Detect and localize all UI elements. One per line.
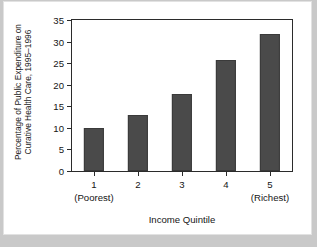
y-axis-tick: [67, 20, 72, 21]
chart-figure: Percentage of Public Expenditure on Cura…: [3, 1, 312, 235]
y-axis-tick: [67, 42, 72, 43]
plot-area: 051015202530351(Poorest)2345(Richest): [71, 19, 293, 172]
x-axis-tick: [138, 171, 139, 176]
x-axis-tick-label: 3: [179, 179, 184, 190]
x-axis-tick: [182, 171, 183, 176]
y-axis-tick: [67, 63, 72, 64]
page-bottom-band: [0, 236, 317, 247]
y-axis-title: Percentage of Public Expenditure on Cura…: [10, 12, 38, 172]
y-axis-tick-label: 20: [53, 79, 64, 90]
x-axis-tick-sublabel: (Poorest): [74, 192, 113, 203]
y-axis-tick-label: 35: [53, 15, 64, 26]
x-axis-tick-label: 1: [91, 179, 96, 190]
y-axis-tick: [67, 106, 72, 107]
y-axis-tick: [67, 128, 72, 129]
y-axis-tick: [67, 171, 72, 172]
y-axis-tick-label: 10: [53, 122, 64, 133]
y-axis-tick-label: 25: [53, 58, 64, 69]
y-axis-tick-label: 5: [59, 144, 64, 155]
bar: [216, 60, 236, 171]
y-axis-tick: [67, 85, 72, 86]
bar: [260, 34, 280, 171]
bar: [172, 94, 192, 171]
x-axis-tick-label: 2: [135, 179, 140, 190]
x-axis-tick-label: 5: [267, 179, 272, 190]
x-axis-tick: [94, 171, 95, 176]
x-axis-tick-sublabel: (Richest): [251, 192, 289, 203]
bar: [128, 115, 148, 171]
x-axis-title: Income Quintile: [71, 214, 293, 225]
x-axis-tick: [270, 171, 271, 176]
x-axis-tick-label: 4: [223, 179, 228, 190]
plot-inner: 051015202530351(Poorest)2345(Richest): [72, 20, 292, 171]
y-axis-tick-label: 0: [59, 166, 64, 177]
y-axis-title-line-2: Curative Health Care, 1995–1996: [24, 30, 34, 155]
y-axis-tick: [67, 149, 72, 150]
bar: [84, 128, 104, 171]
y-axis-tick-label: 30: [53, 36, 64, 47]
x-axis-tick: [226, 171, 227, 176]
y-axis-tick-label: 15: [53, 101, 64, 112]
